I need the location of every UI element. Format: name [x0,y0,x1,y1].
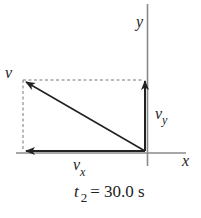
v-resultant-label: v [5,64,13,81]
v-resultant-vector-arrow [26,82,145,151]
vy-label: vy [155,105,168,127]
vx-label: vx [73,156,86,179]
vector-diagram: y x v vy vx t2= 30.0 s [0,0,201,218]
x-axis-label: x [181,152,189,169]
y-axis-label: y [134,13,144,31]
time-caption: t2= 30.0 s [74,182,145,205]
